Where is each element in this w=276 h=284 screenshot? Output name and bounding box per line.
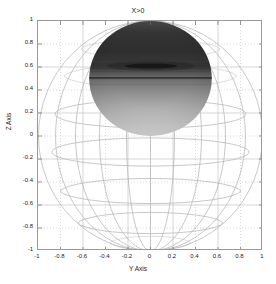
- ytick-label-8: -0.6: [5, 200, 33, 207]
- ytick-label-10: -1: [5, 246, 33, 253]
- ytick-label-1: 0.8: [5, 39, 33, 46]
- x-axis-label: Y Axis: [0, 265, 276, 272]
- plot-svg: [38, 21, 262, 250]
- ytick-label-3: 0.4: [5, 85, 33, 92]
- ytick-label-9: -0.8: [5, 223, 33, 230]
- ytick-label-6: -0.2: [5, 154, 33, 161]
- shaded-disk: [38, 21, 262, 136]
- plot-area[interactable]: [37, 20, 262, 250]
- figure-canvas: X>0: [0, 0, 276, 284]
- ytick-label-0: 1: [5, 16, 33, 23]
- ytick-label-2: 0.6: [5, 62, 33, 69]
- ytick-label-7: -0.4: [5, 177, 33, 184]
- dark-line-marker: [38, 77, 262, 78]
- xtick-label-10: 1: [248, 253, 276, 260]
- y-axis-label: Z Axis: [5, 100, 12, 144]
- page-title: X>0: [0, 6, 276, 15]
